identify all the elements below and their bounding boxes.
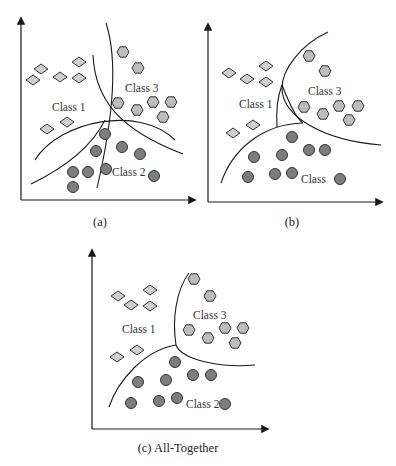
class2-circle-point [117, 142, 128, 153]
class1-diamond-point [240, 74, 254, 84]
class1-diamond-point [26, 75, 40, 85]
class3-label: Class 3 [125, 82, 159, 94]
class2-circle-point [101, 164, 112, 175]
data-points [26, 47, 177, 193]
class3-hexagon-point [183, 325, 195, 335]
class2-circle-point [83, 167, 94, 178]
class1-diamond-point [72, 73, 86, 83]
class2-circle-point [270, 169, 281, 180]
class2-circle-point [68, 182, 79, 193]
panel-c: Class 1 Class 3 Class 2 (c) All-Together [92, 250, 268, 455]
class2-circle-point [277, 150, 288, 161]
class2-circle-point [149, 171, 160, 182]
figure: Class 1 Class 3 Class 2 (a) Class 1 Clas… [0, 0, 396, 466]
class3-hexagon-point [131, 105, 143, 115]
class2-circle-point [304, 145, 315, 156]
class2-circle-point [126, 398, 137, 409]
class1-diamond-point [72, 57, 86, 67]
class1-diamond-point [143, 301, 157, 311]
class2-circle-point [220, 399, 231, 410]
class2-circle-point [161, 375, 172, 386]
panel-b: Class 1 Class 3 Class (b) [208, 24, 382, 229]
class1-label: Class 1 [52, 101, 86, 113]
data-points [222, 51, 364, 185]
class1-diamond-point [111, 291, 125, 301]
decision-boundary [35, 120, 175, 160]
class2-circle-point [91, 146, 102, 157]
data-points [110, 274, 249, 410]
class3-hexagon-point [147, 97, 159, 107]
class2-circle-point [170, 357, 181, 368]
class2-circle-point [172, 393, 183, 404]
class2-circle-point [287, 168, 298, 179]
class3-hexagon-point [298, 102, 310, 112]
panel-caption: (c) All-Together [138, 441, 220, 455]
class3-hexagon-point [117, 47, 129, 57]
class2-circle-point [206, 370, 217, 381]
class1-diamond-point [222, 68, 236, 78]
class3-hexagon-point [333, 101, 345, 111]
class3-hexagon-point [317, 109, 329, 119]
class2-label: Class [301, 173, 326, 185]
class1-diamond-point [53, 72, 67, 82]
class3-hexagon-point [202, 333, 214, 343]
class3-hexagon-point [303, 51, 315, 61]
class2-circle-point [243, 172, 254, 183]
class3-hexagon-point [352, 101, 364, 111]
class2-circle-point [249, 152, 260, 163]
class1-diamond-point [130, 345, 144, 355]
class2-label: Class 2 [112, 166, 146, 178]
class2-label: Class 2 [186, 398, 220, 410]
class3-hexagon-point [132, 63, 144, 73]
class2-circle-point [135, 149, 146, 160]
class2-circle-point [133, 377, 144, 388]
panel-caption: (b) [285, 215, 300, 229]
class3-hexagon-point [204, 291, 216, 301]
class1-diamond-point [226, 128, 240, 138]
class1-diamond-point [259, 77, 273, 87]
class3-label: Class 3 [193, 309, 227, 321]
class1-label: Class 1 [122, 323, 156, 335]
class2-circle-point [154, 396, 165, 407]
class3-hexagon-point [237, 323, 249, 333]
class3-hexagon-point [112, 98, 124, 108]
panel-a: Class 1 Class 3 Class 2 (a) [21, 18, 195, 229]
class3-hexagon-point [343, 115, 355, 125]
class1-diamond-point [110, 352, 124, 362]
class2-circle-point [335, 174, 346, 185]
class1-diamond-point [60, 117, 74, 127]
class1-diamond-point [124, 300, 138, 310]
class3-hexagon-point [319, 66, 331, 76]
class1-diamond-point [143, 285, 157, 295]
class2-circle-point [68, 167, 79, 178]
class2-circle-point [188, 370, 199, 381]
class1-diamond-point [40, 124, 54, 134]
class1-diamond-point [246, 120, 260, 130]
panel-caption: (a) [93, 215, 107, 229]
class3-hexagon-point [157, 112, 169, 122]
class3-hexagon-point [229, 338, 241, 348]
class3-hexagon-point [188, 274, 200, 284]
class3-hexagon-point [165, 97, 177, 107]
class2-circle-point [287, 132, 298, 143]
class1-diamond-point [259, 61, 273, 71]
class3-hexagon-point [219, 323, 231, 333]
decision-boundary [277, 85, 282, 127]
class2-circle-point [100, 129, 111, 140]
class1-diamond-point [34, 64, 48, 74]
class2-circle-point [320, 145, 331, 156]
class3-label: Class 3 [308, 85, 342, 97]
class1-label: Class 1 [239, 98, 273, 110]
